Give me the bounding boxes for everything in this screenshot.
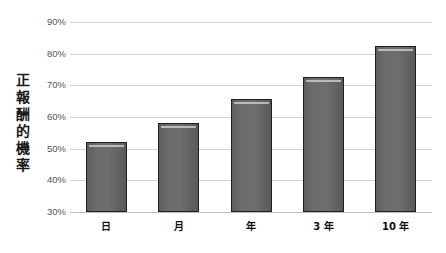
bar <box>375 46 416 212</box>
x-tick-label: 10 年 <box>360 218 432 233</box>
y-tick-label: 60% <box>36 112 66 122</box>
bar-top-highlight <box>378 49 413 51</box>
y-axis-title-char: 報 <box>10 89 36 106</box>
plot-area: 日月年3 年10 年 <box>70 22 432 212</box>
y-axis-title-char: 率 <box>10 157 36 174</box>
y-axis-title-char: 酬 <box>10 106 36 123</box>
bar-top-highlight <box>161 126 196 128</box>
y-tick-label: 80% <box>36 49 66 59</box>
bar-top-highlight <box>306 80 341 82</box>
y-axis-title-char: 機 <box>10 140 36 157</box>
x-tick-label: 年 <box>215 218 287 233</box>
y-axis-title: 正報酬的機率 <box>10 72 36 174</box>
y-axis-title-char: 的 <box>10 123 36 140</box>
x-axis-line <box>70 212 432 213</box>
bar-top-highlight <box>89 145 124 147</box>
x-tick-label: 日 <box>70 218 142 233</box>
bar-top-highlight <box>234 102 269 104</box>
y-tick-label: 50% <box>36 144 66 154</box>
bar <box>231 99 272 212</box>
y-tick-label: 30% <box>36 207 66 217</box>
x-tick-label: 3 年 <box>287 218 359 233</box>
bar <box>303 77 344 212</box>
y-axis-title-char: 正 <box>10 72 36 89</box>
gridline <box>70 22 432 23</box>
x-tick-label: 月 <box>142 218 214 233</box>
y-tick-label: 70% <box>36 80 66 90</box>
bar <box>86 142 127 212</box>
y-tick-label: 90% <box>36 17 66 27</box>
bar-chart: 正報酬的機率 日月年3 年10 年 30%40%50%60%70%80%90% <box>0 0 446 253</box>
bar <box>158 123 199 212</box>
y-tick-label: 40% <box>36 175 66 185</box>
